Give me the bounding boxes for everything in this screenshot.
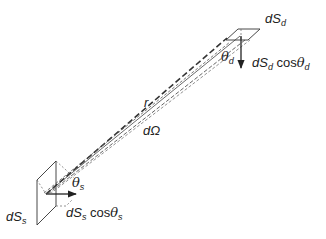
label-sub: d	[229, 56, 234, 66]
label-main: θ	[221, 49, 229, 64]
label-main: dS	[265, 11, 281, 26]
label-sub: s	[82, 212, 87, 222]
label-sub: s	[80, 182, 85, 192]
label-main: dS	[6, 209, 22, 224]
label-main: dΩ	[143, 123, 160, 138]
label-sub: d	[268, 62, 273, 72]
source-area-label: dSs	[6, 210, 26, 223]
label-angle: θ	[110, 205, 118, 220]
source-angle-label: θs	[72, 176, 84, 189]
label-cos: cos	[277, 55, 297, 70]
label-main: θ	[72, 175, 80, 190]
beam-lines	[44, 36, 250, 194]
label-main: dS	[252, 55, 268, 70]
detector-area-label: dSd	[265, 12, 286, 25]
label-sub: s	[22, 216, 27, 226]
detector-angle-label: θd	[221, 50, 234, 63]
label-sub: d	[281, 18, 286, 28]
label-main: dS	[66, 205, 82, 220]
source-projected-label: dSs cosθs	[66, 206, 123, 219]
label-cos: cos	[90, 205, 110, 220]
label-angle-sub: s	[118, 212, 123, 222]
label-angle-sub: d	[305, 62, 310, 72]
distance-label: r	[144, 96, 148, 109]
detector-surface	[226, 29, 260, 40]
label-angle: θ	[297, 55, 305, 70]
radiometry-diagram	[0, 0, 326, 239]
solid-angle-label: dΩ	[143, 124, 160, 137]
detector-projected-label: dSd cosθd	[252, 56, 310, 69]
